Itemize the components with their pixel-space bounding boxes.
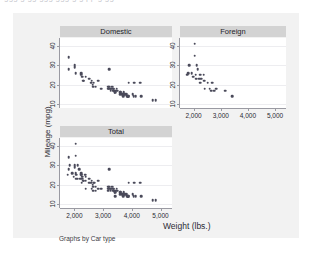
y-tick-label-text: 10	[169, 100, 176, 107]
x-tick-mark	[103, 209, 104, 211]
y-axis-rule	[179, 38, 180, 108]
data-point	[140, 195, 143, 198]
y-tick-label-text: 40	[49, 42, 56, 49]
x-tick-mark	[221, 109, 222, 111]
data-point	[74, 154, 77, 157]
data-point	[151, 199, 154, 202]
y-tick-label: 30	[46, 161, 58, 169]
data-point	[231, 95, 234, 98]
y-tick-label-text: 10	[49, 100, 56, 107]
y-tick-label: 40	[46, 42, 58, 50]
x-tick-mark	[74, 209, 75, 211]
data-point	[75, 174, 78, 177]
y-axis-rule	[59, 138, 60, 208]
x-tick-label: 2,000	[185, 112, 201, 119]
data-point	[84, 180, 87, 183]
data-point	[203, 80, 206, 83]
data-point	[139, 81, 142, 84]
data-point	[187, 72, 190, 75]
y-tick-label-text: 30	[169, 62, 176, 69]
gridline	[180, 104, 286, 105]
data-point	[95, 85, 98, 88]
panel-title-domestic: Domestic	[60, 26, 172, 37]
gridline	[60, 204, 172, 205]
plot-area-domestic	[60, 38, 172, 108]
y-tick-label: 10	[46, 100, 58, 108]
y-tick-label-text: 30	[49, 62, 56, 69]
y-axis-rule	[59, 38, 60, 108]
gridline	[60, 104, 172, 105]
data-point	[206, 81, 209, 84]
plot-area-total	[60, 138, 172, 208]
x-tick-mark	[248, 109, 249, 111]
x-tick-label: 4,000	[124, 212, 140, 219]
data-point	[75, 143, 78, 146]
data-point	[85, 187, 88, 190]
data-point	[85, 176, 88, 179]
data-point	[199, 74, 202, 77]
data-point	[197, 68, 200, 71]
data-point	[151, 99, 154, 102]
y-tick-label: 40	[166, 42, 178, 50]
y-tick-label: 20	[46, 81, 58, 89]
x-tick-mark	[194, 109, 195, 111]
data-point	[77, 164, 80, 167]
plot-area-foreign	[180, 38, 286, 108]
x-axis-rule	[180, 108, 286, 109]
data-point	[67, 168, 70, 171]
data-point	[202, 74, 205, 77]
panel-foreign: Foreign	[180, 26, 286, 108]
gridline	[60, 146, 172, 147]
clipped-top-text: ggg g gg ggg ggg g g pp g gg	[0, 0, 313, 9]
data-point	[128, 181, 131, 184]
gridline	[60, 85, 172, 86]
clipped-top-text-label: ggg g gg ggg ggg g g pp g gg	[4, 0, 114, 2]
panel-title-foreign: Foreign	[180, 26, 286, 37]
y-tick-label: 30	[46, 61, 58, 69]
data-point	[71, 172, 74, 175]
x-tick-label: 5,000	[152, 212, 168, 219]
data-point	[211, 81, 214, 84]
x-tick-label: 3,000	[95, 212, 111, 219]
x-tick-label: 4,000	[240, 112, 256, 119]
data-point	[108, 68, 111, 71]
data-point	[188, 64, 191, 67]
data-point	[85, 76, 88, 79]
data-point	[78, 168, 81, 171]
data-point	[140, 95, 143, 98]
y-tick-label: 30	[166, 61, 178, 69]
data-point	[67, 56, 70, 59]
y-tick-label-text: 10	[49, 200, 56, 207]
gridline	[60, 65, 172, 66]
data-point	[83, 80, 86, 83]
y-axis-title-label: Mileage (mpg)	[43, 106, 52, 157]
data-point	[74, 66, 77, 69]
data-point	[66, 174, 69, 177]
graph-footer-note: Graphs by Car type	[59, 235, 115, 242]
data-point	[133, 181, 136, 184]
x-axis-title: Weight (lbs.)	[163, 221, 211, 231]
gridline	[180, 46, 286, 47]
y-tick-label: 20	[46, 181, 58, 189]
data-point	[194, 74, 197, 77]
y-tick-label-text: 40	[49, 142, 56, 149]
y-tick-label-text: 40	[169, 42, 176, 49]
data-point	[194, 43, 197, 46]
y-tick-label: 20	[166, 81, 178, 89]
y-tick-label-text: 30	[49, 162, 56, 169]
data-point	[139, 181, 142, 184]
data-point	[93, 181, 96, 184]
gridline	[60, 46, 172, 47]
data-point	[133, 81, 136, 84]
panel-title-total: Total	[60, 126, 172, 137]
x-tick-label: 3,000	[213, 112, 229, 119]
x-axis-rule	[60, 208, 172, 209]
gridline	[60, 185, 172, 186]
y-tick-label-text: 20	[49, 181, 56, 188]
data-point	[67, 156, 70, 159]
y-tick-label-text: 20	[169, 81, 176, 88]
y-tick-label: 10	[46, 200, 58, 208]
y-tick-label: 10	[166, 100, 178, 108]
panel-total: Total	[60, 126, 172, 208]
y-tick-label-text: 20	[49, 81, 56, 88]
